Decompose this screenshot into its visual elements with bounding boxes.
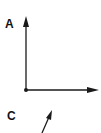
vector-diagram: A C — [0, 0, 101, 133]
diagonal-arrow-head-icon — [46, 110, 52, 120]
vertical-arrow-head-icon — [23, 16, 29, 27]
diagonal-arrow-shaft — [42, 117, 49, 133]
label-a: A — [5, 18, 14, 30]
origin-dot — [24, 88, 28, 92]
label-c: C — [7, 110, 16, 122]
horizontal-arrow-head-icon — [87, 87, 99, 93]
